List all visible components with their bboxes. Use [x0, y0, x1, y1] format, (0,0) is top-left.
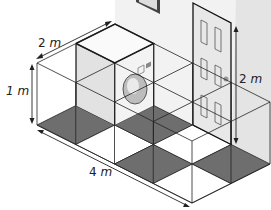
height-unit: m: [17, 84, 29, 98]
room-diagram: 2 m 1 m 4 m 2 m: [0, 0, 271, 210]
depth-unit: m: [49, 36, 61, 50]
length-label: 4 m: [89, 165, 112, 179]
porthole-icon: [123, 74, 147, 104]
door: [193, 3, 231, 145]
door-height-value: 2: [239, 72, 247, 86]
height-value: 1: [6, 84, 14, 98]
length-unit: m: [100, 165, 112, 179]
height-label: 1 m: [6, 84, 29, 98]
length-value: 4: [89, 165, 97, 179]
depth-value: 2: [38, 36, 46, 50]
depth-label: 2 m: [38, 36, 61, 50]
door-height-unit: m: [250, 72, 262, 86]
door-height-label: 2 m: [239, 72, 262, 86]
